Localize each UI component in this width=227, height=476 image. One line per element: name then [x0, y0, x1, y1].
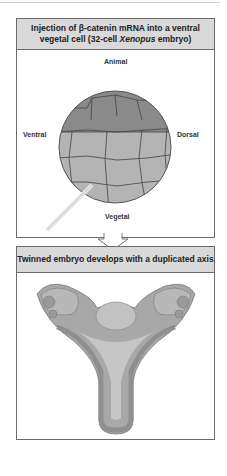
faded-caption — [18, 462, 188, 468]
top-rule — [0, 2, 220, 3]
twinned-embryo-panel-title: Twinned embryo develops with a duplicate… — [17, 247, 214, 273]
twinned-embryo-illustration — [17, 272, 216, 440]
twinned-embryo-panel: Twinned embryo develops with a duplicate… — [16, 246, 215, 440]
embryo-32-cell-illustration — [17, 50, 216, 240]
injection-panel: Injection of β-catenin mRNA into a ventr… — [16, 18, 215, 238]
title-line-2: vegetal cell (32-cell Xenopus embryo) — [17, 34, 214, 45]
injection-panel-title: Injection of β-catenin mRNA into a ventr… — [17, 19, 214, 50]
title-line-1: Injection of β-catenin mRNA into a ventr… — [17, 23, 214, 34]
